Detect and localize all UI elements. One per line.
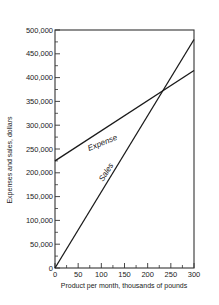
- y-tick-label: 450,000: [26, 49, 53, 58]
- x-axis-title: Product per month, thousands of pounds: [61, 282, 188, 290]
- x-tick-label: 300: [188, 270, 201, 279]
- expense-series-label: Expense: [86, 133, 119, 153]
- y-tick-label: 300,000: [26, 121, 53, 130]
- plot-frame: [55, 30, 194, 268]
- series-lines: [55, 40, 194, 268]
- x-tick-label: 100: [95, 270, 108, 279]
- y-tick-label: 50,000: [30, 240, 53, 249]
- y-tick-label: 400,000: [26, 73, 53, 82]
- x-tick-label: 250: [165, 270, 178, 279]
- expense-line: [55, 70, 194, 160]
- sales-line: [55, 40, 194, 268]
- x-tick-label: 150: [118, 270, 131, 279]
- y-tick-label: 100,000: [26, 216, 53, 225]
- x-tick-label: 200: [141, 270, 154, 279]
- y-tick-label: 150,000: [26, 192, 53, 201]
- y-tick-label: 350,000: [26, 97, 53, 106]
- y-tick-label: 200,000: [26, 168, 53, 177]
- x-axis: 050100150200250300: [53, 263, 200, 279]
- x-tick-label: 50: [74, 270, 82, 279]
- break-even-chart: 050,000100,000150,000200,000250,000300,0…: [0, 0, 219, 305]
- y-axis-title: Expenses and sales, dollars: [6, 116, 14, 204]
- y-tick-label: 500,000: [26, 26, 53, 35]
- y-tick-label: 250,000: [26, 145, 53, 154]
- x-tick-label: 0: [53, 270, 57, 279]
